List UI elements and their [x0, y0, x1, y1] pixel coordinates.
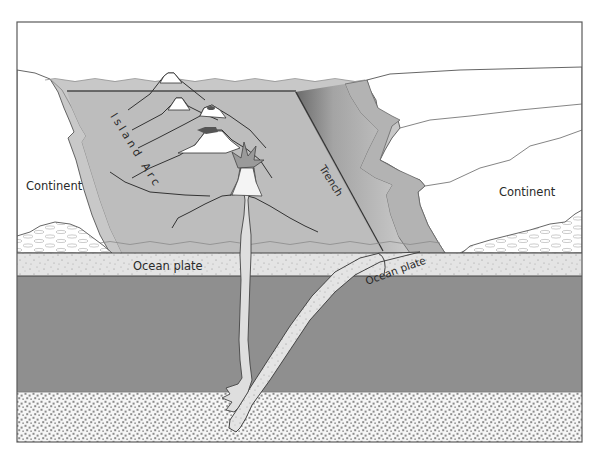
- label-continent-left: Continent: [26, 179, 83, 193]
- label-continent-right: Continent: [499, 185, 556, 199]
- subduction-diagram: Continent Continent Ocean plate Island A…: [0, 0, 599, 471]
- asthenosphere-layer: [17, 392, 582, 442]
- ocean-plate-flat: [17, 253, 582, 276]
- label-ocean-plate-flat: Ocean plate: [133, 259, 203, 273]
